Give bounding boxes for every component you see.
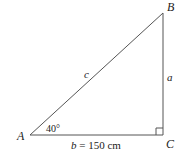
side-label-a: a [167, 71, 173, 83]
side-label-c: c [84, 68, 89, 80]
triangle-diagram: A B C c a 40° b = 150 cm [0, 0, 185, 154]
side-label-b: b = 150 cm [71, 139, 121, 151]
right-angle-marker [156, 128, 163, 135]
side-label-b-value: = 150 cm [77, 139, 122, 151]
side-c-hypotenuse [30, 13, 163, 135]
vertex-label-b: B [167, 0, 175, 14]
angle-label-a: 40° [46, 123, 60, 134]
vertex-label-a: A [16, 129, 25, 143]
vertex-label-c: C [166, 137, 175, 151]
